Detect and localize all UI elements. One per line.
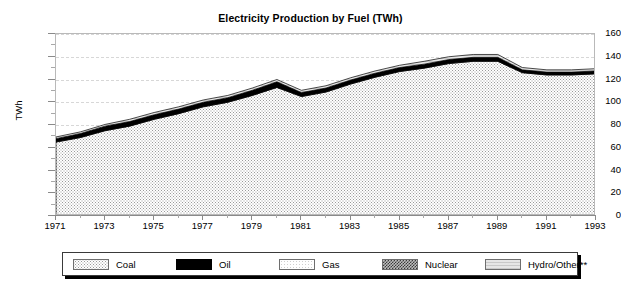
y-axis-title: TWh (13, 81, 24, 141)
chart-title: Electricity Production by Fuel (TWh) (0, 12, 621, 24)
legend-item-oil[interactable]: Oil (176, 253, 231, 275)
legend-swatch-gas (279, 259, 315, 270)
y-axis-tick (48, 215, 55, 216)
x-axis-label: 1987 (428, 221, 468, 231)
legend-swatch-coal (73, 259, 109, 270)
y-axis-tick (48, 170, 55, 171)
y-axis-tick (48, 124, 55, 125)
plot-clip (56, 34, 594, 214)
y-axis-tick (48, 101, 55, 102)
legend-swatch-nuclear (382, 259, 418, 270)
x-axis-minor-tick (570, 215, 571, 218)
legend-label: Oil (219, 259, 231, 270)
x-axis-minor-tick (325, 215, 326, 218)
chart-container: Electricity Production by Fuel (TWh) TWh… (0, 0, 621, 288)
x-axis-label: 1973 (84, 221, 124, 231)
x-axis-label: 1985 (379, 221, 419, 231)
x-axis-minor-tick (423, 215, 424, 218)
legend-item-gas[interactable]: Gas (279, 253, 339, 275)
legend-label: Coal (116, 259, 136, 270)
y-axis-tick (48, 192, 55, 193)
plot-area (55, 33, 595, 215)
area-series-coal (56, 61, 594, 214)
x-axis-label: 1983 (330, 221, 370, 231)
x-axis-label: 1981 (280, 221, 320, 231)
x-axis-minor-tick (178, 215, 179, 218)
y-axis-tick (48, 147, 55, 148)
x-axis-label: 1989 (477, 221, 517, 231)
x-axis-minor-tick (374, 215, 375, 218)
legend-item-hydro[interactable]: Hydro/Other** (485, 253, 587, 275)
x-axis-label: 1975 (133, 221, 173, 231)
y-axis-tick (48, 79, 55, 80)
x-axis-minor-tick (521, 215, 522, 218)
y-axis-tick (48, 56, 55, 57)
legend-swatch-oil (176, 259, 212, 270)
stacked-area-series (56, 34, 594, 214)
x-axis-minor-tick (472, 215, 473, 218)
legend-item-nuclear[interactable]: Nuclear (382, 253, 458, 275)
legend-label: Gas (322, 259, 339, 270)
y-axis-tick (48, 33, 55, 34)
legend-label: Hydro/Other** (528, 259, 587, 270)
x-axis-minor-tick (80, 215, 81, 218)
x-axis-label: 1977 (182, 221, 222, 231)
x-axis-minor-tick (227, 215, 228, 218)
x-axis-minor-tick (129, 215, 130, 218)
x-axis-minor-tick (276, 215, 277, 218)
x-axis-label: 1991 (526, 221, 566, 231)
legend-label: Nuclear (425, 259, 458, 270)
x-axis-label: 1979 (231, 221, 271, 231)
legend-swatch-hydro (485, 259, 521, 270)
x-axis-label: 1993 (575, 221, 615, 231)
legend-item-coal[interactable]: Coal (73, 253, 136, 275)
chart-legend: CoalOilGasNuclearHydro/Other** (62, 252, 578, 276)
x-axis-label: 1971 (35, 221, 75, 231)
